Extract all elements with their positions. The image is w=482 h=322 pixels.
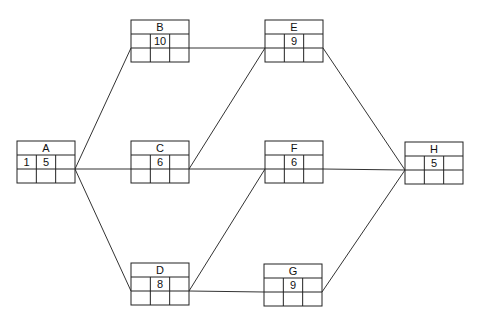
node-h: H5 xyxy=(405,142,463,184)
node-label: A xyxy=(42,142,50,154)
node-label: D xyxy=(156,264,164,276)
edge-a-d xyxy=(75,169,131,291)
edge-c-e xyxy=(189,48,265,169)
node-cell: 6 xyxy=(291,156,297,168)
edges-layer xyxy=(75,48,405,292)
node-cell: 9 xyxy=(290,279,296,291)
node-cell: 8 xyxy=(157,278,163,290)
node-b: B10 xyxy=(131,20,189,62)
node-label: E xyxy=(290,21,297,33)
network-diagram: A15B10C6D8E9F6G9H5 xyxy=(0,0,482,322)
node-cell: 1 xyxy=(24,156,30,168)
nodes-layer: A15B10C6D8E9F6G9H5 xyxy=(17,20,463,306)
node-label: H xyxy=(430,143,438,155)
node-label: F xyxy=(291,142,298,154)
node-c: C6 xyxy=(131,141,189,183)
node-label: C xyxy=(156,142,164,154)
node-label: G xyxy=(289,265,298,277)
edge-g-h xyxy=(322,170,405,292)
edge-d-f xyxy=(189,169,265,291)
edge-a-b xyxy=(75,48,131,169)
node-cell: 5 xyxy=(43,156,49,168)
node-a: A15 xyxy=(17,141,75,183)
node-cell: 5 xyxy=(431,157,437,169)
node-f: F6 xyxy=(265,141,323,183)
edge-e-h xyxy=(323,48,405,170)
edge-d-g xyxy=(189,291,264,292)
node-cell: 9 xyxy=(291,35,297,47)
node-label: B xyxy=(156,21,163,33)
node-d: D8 xyxy=(131,263,189,305)
edge-f-h xyxy=(323,169,405,170)
node-cell: 10 xyxy=(154,35,166,47)
node-cell: 6 xyxy=(157,156,163,168)
node-e: E9 xyxy=(265,20,323,62)
node-g: G9 xyxy=(264,264,322,306)
